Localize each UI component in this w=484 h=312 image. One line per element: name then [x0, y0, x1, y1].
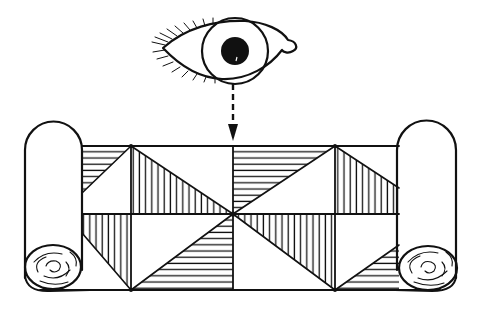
rolled-end-left	[25, 122, 90, 292]
illustration: Line illustration of an eye looking down…	[0, 0, 484, 312]
eyelashes	[152, 18, 215, 83]
eye-icon	[152, 18, 296, 84]
rolled-end-right	[395, 121, 457, 292]
spiral-left-icon	[25, 245, 81, 289]
pupil	[221, 37, 249, 65]
dashed-arrow-down-icon	[228, 84, 238, 141]
hatched-pattern	[82, 146, 399, 290]
scroll	[25, 121, 457, 293]
